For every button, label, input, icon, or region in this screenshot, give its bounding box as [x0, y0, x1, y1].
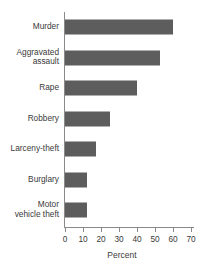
x-tick-label: 10	[78, 234, 87, 244]
bar-chart: MurderAggravated assaultRapeRobberyLarce…	[0, 0, 214, 273]
x-tick-label: 70	[186, 234, 195, 244]
x-tick-label: 40	[132, 234, 141, 244]
bar	[65, 81, 137, 96]
bar-category-label: Murder	[0, 22, 59, 32]
x-tick-mark	[191, 227, 192, 232]
x-tick-mark	[173, 227, 174, 232]
x-tick-mark	[119, 227, 120, 232]
bar-track	[65, 81, 205, 96]
bar-category-label: Aggravated assault	[0, 48, 59, 67]
bar-track	[65, 50, 205, 65]
bar-row: Rape	[0, 73, 214, 104]
bar	[65, 142, 96, 157]
bar-row: Robbery	[0, 104, 214, 135]
plot-area: MurderAggravated assaultRapeRobberyLarce…	[0, 0, 214, 273]
x-tick-label: 20	[96, 234, 105, 244]
x-tick-mark	[83, 227, 84, 232]
x-tick-mark	[101, 227, 102, 232]
x-tick-label: 30	[114, 234, 123, 244]
x-tick-mark	[65, 227, 66, 232]
bar	[65, 172, 87, 187]
x-axis-title: Percent	[0, 250, 214, 260]
bar-track	[65, 20, 205, 35]
x-tick-mark	[137, 227, 138, 232]
bar-category-label: Robbery	[0, 114, 59, 124]
bar-rows: MurderAggravated assaultRapeRobberyLarce…	[0, 12, 214, 226]
x-tick-label: 50	[150, 234, 159, 244]
bar-track	[65, 203, 205, 218]
x-tick-label: 60	[168, 234, 177, 244]
bar	[65, 50, 160, 65]
bar	[65, 20, 173, 35]
bar-row: Motor vehicle theft	[0, 195, 214, 226]
bar-category-label: Larceny-theft	[0, 144, 59, 154]
bar	[65, 111, 110, 126]
bar-row: Aggravated assault	[0, 43, 214, 74]
bar-track	[65, 142, 205, 157]
bar-row: Burglary	[0, 165, 214, 196]
bar-category-label: Burglary	[0, 175, 59, 185]
bar-category-label: Rape	[0, 83, 59, 93]
bar	[65, 203, 87, 218]
bar-category-label: Motor vehicle theft	[0, 201, 59, 220]
bar-row: Murder	[0, 12, 214, 43]
bar-row: Larceny-theft	[0, 134, 214, 165]
x-tick-mark	[155, 227, 156, 232]
bar-track	[65, 111, 205, 126]
x-tick-label: 0	[63, 234, 68, 244]
bar-track	[65, 172, 205, 187]
